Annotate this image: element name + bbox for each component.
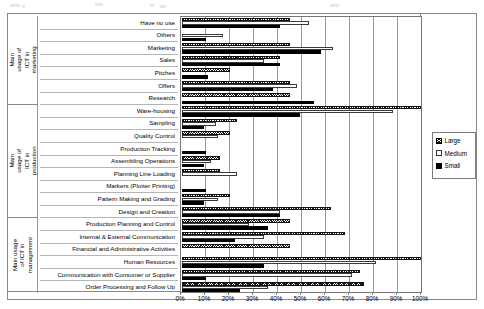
bar-small — [182, 38, 206, 41]
category-label: Production Tracking — [38, 145, 178, 152]
group-separator — [8, 217, 38, 218]
open-swatch-icon — [436, 150, 442, 156]
bar-small — [182, 264, 264, 267]
bar-small — [182, 113, 300, 116]
row-separator — [40, 280, 178, 281]
group-axis-label: Main usage of ICT in management — [11, 237, 33, 273]
category-label: Sampling — [38, 119, 178, 126]
row-separator — [40, 41, 178, 42]
category-label: Assembling Operations — [38, 157, 178, 164]
gridline — [373, 17, 374, 292]
chart-outer-border: Main usage of ICT in marketingMain usage… — [7, 13, 477, 300]
category-label: Design and Creation — [38, 208, 178, 215]
row-separator — [40, 117, 178, 118]
row-separator — [40, 104, 178, 105]
legend-label: Small — [445, 162, 461, 169]
x-tick-label: 90% — [390, 295, 403, 302]
bar-small — [182, 277, 206, 280]
x-tick-label: 20% — [222, 295, 235, 302]
category-label: Ware-housing — [38, 107, 178, 114]
category-label: Production Planning and Control — [38, 220, 178, 227]
bar-large — [182, 93, 290, 96]
category-label: Markers (Plotter Printing) — [38, 182, 178, 189]
bar-small — [182, 75, 208, 78]
bar-small — [182, 151, 206, 154]
category-label-column: Have no useOthersMarketingSalesPitchesOf… — [38, 16, 180, 293]
bar-small — [182, 214, 280, 217]
scan-artifacts — [0, 0, 484, 12]
bar-small — [182, 201, 204, 204]
group-axis-cell: Main usage of ICT in marketing — [8, 16, 38, 104]
x-tick-label: 80% — [366, 295, 379, 302]
group-axis-cell: Main usage of ICT in production — [8, 104, 38, 217]
row-separator — [40, 129, 178, 130]
bar-large — [182, 68, 230, 71]
x-tick-label: 10% — [198, 295, 211, 302]
legend-label: Medium — [445, 150, 467, 157]
x-tick-label: 50% — [294, 295, 307, 302]
category-label: Research — [38, 94, 178, 101]
plot-area — [180, 16, 422, 293]
group-axis-column: Main usage of ICT in marketingMain usage… — [8, 16, 38, 293]
bar-small — [182, 101, 314, 104]
category-label: Pitches — [38, 69, 178, 76]
gridline — [349, 17, 350, 292]
category-label: Planning Line Loading — [38, 170, 178, 177]
bar-medium — [182, 135, 218, 138]
row-separator — [40, 155, 178, 156]
row-separator — [40, 66, 178, 67]
bar-small — [182, 126, 204, 129]
x-tick-label: 30% — [246, 295, 259, 302]
row-separator — [40, 243, 178, 244]
bar-small — [182, 239, 235, 242]
bar-small — [182, 164, 204, 167]
group-separator — [8, 104, 38, 105]
category-label: Communication with Consumer or Supplier — [38, 271, 178, 278]
group-axis-cell: Main usage of ICT in management — [8, 217, 38, 293]
group-axis-label: Main usage of ICT in marketing — [8, 46, 38, 75]
crosshatch-swatch-icon — [436, 138, 442, 144]
bar-large — [182, 244, 290, 247]
legend-item[interactable]: Small — [436, 162, 475, 169]
x-tick-label: 40% — [270, 295, 283, 302]
bar-medium — [182, 172, 237, 175]
gridline — [397, 17, 398, 292]
bar-small — [182, 189, 206, 192]
category-label: Offers — [38, 82, 178, 89]
gridline — [325, 17, 326, 292]
legend-label: Large — [445, 137, 461, 144]
bar-medium — [182, 273, 352, 276]
x-tick-label: 70% — [342, 295, 355, 302]
bar-small — [182, 25, 280, 28]
x-tick-label: 60% — [318, 295, 331, 302]
gridline — [301, 17, 302, 292]
x-tick-label: 0% — [175, 295, 184, 302]
category-label: Have no use — [38, 19, 178, 26]
legend-item[interactable]: Large — [436, 137, 475, 144]
row-separator — [40, 54, 178, 55]
category-label: Internal & External Communication — [38, 233, 178, 240]
group-axis-label: Main usage of ICT in production — [8, 146, 38, 175]
category-label: Human Resources — [38, 258, 178, 265]
category-label: Others — [38, 31, 178, 38]
bar-small — [182, 50, 321, 53]
row-separator — [40, 217, 178, 218]
chart-legend: Large Medium Small — [432, 132, 476, 179]
row-separator — [40, 92, 178, 93]
legend-item[interactable]: Medium — [436, 150, 475, 157]
category-label: Order Processing and Follow Up — [38, 283, 178, 290]
row-separator — [40, 180, 178, 181]
bar-small — [182, 63, 280, 66]
row-separator — [40, 192, 178, 193]
category-label: Quality Control — [38, 132, 178, 139]
category-label: Sales — [38, 56, 178, 63]
row-separator — [40, 205, 178, 206]
bar-small — [182, 88, 273, 91]
row-separator — [40, 167, 178, 168]
category-label: Marketing — [38, 44, 178, 51]
bar-small — [182, 226, 268, 229]
row-separator — [40, 142, 178, 143]
row-separator — [40, 268, 178, 269]
bar-small — [182, 289, 240, 292]
solid-swatch-icon — [436, 163, 442, 169]
